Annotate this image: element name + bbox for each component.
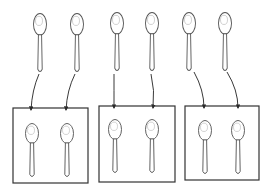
- spoon-2-icon: [71, 13, 84, 71]
- spoon-4-icon: [146, 12, 159, 70]
- spoon-groups: [13, 106, 259, 183]
- group-3-box: [185, 106, 259, 180]
- arrow-1: [31, 74, 39, 110]
- group-2: [99, 106, 175, 182]
- group-3-spoon-2-icon: [232, 120, 245, 173]
- group-3: [185, 106, 259, 180]
- spoon-5-icon: [183, 12, 196, 70]
- group-1-spoon-1-icon: [26, 123, 39, 176]
- group-1-box: [13, 108, 88, 183]
- group-3-spoon-1-icon: [199, 120, 212, 173]
- arrow-6: [227, 72, 238, 108]
- arrow-5: [194, 72, 204, 108]
- grouping-arrows: [31, 72, 238, 110]
- arrow-4: [151, 74, 154, 108]
- arrow-2: [66, 74, 75, 110]
- group-2-spoon-1-icon: [109, 119, 122, 172]
- spoon-3-icon: [111, 12, 124, 70]
- group-1-spoon-2-icon: [61, 123, 74, 176]
- ungrouped-spoons: [34, 12, 232, 71]
- spoon-6-icon: [219, 12, 232, 70]
- group-2-spoon-2-icon: [146, 119, 159, 172]
- diagram-canvas: [0, 0, 268, 191]
- group-1: [13, 108, 88, 183]
- spoon-1-icon: [34, 13, 47, 71]
- spoon-grouping-diagram: [0, 0, 268, 191]
- group-2-box: [99, 106, 175, 182]
